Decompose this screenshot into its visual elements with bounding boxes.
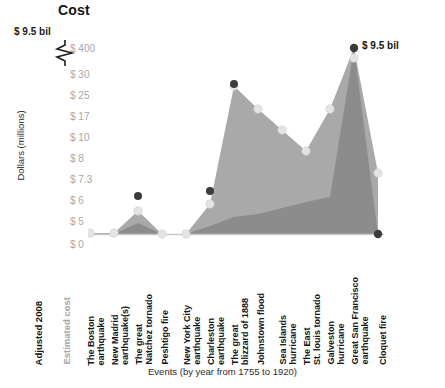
- x-axis-labels: Adjusted 2008 Estimated cost The Boston …: [0, 240, 445, 365]
- x-label-peshtigo-fire: Peshtigo fire: [160, 310, 170, 365]
- x-label-new-madrid-earthquakes: New Madrid earthquake(s): [110, 306, 130, 365]
- x-series-label-estimated: Estimated cost: [62, 297, 72, 365]
- x-label-galveston-hurricane: Galveston hurricane: [326, 321, 346, 365]
- y-axis-title: Dollars (millions): [15, 86, 26, 206]
- x-label-johnstown-flood: Johnstown flood: [256, 293, 266, 365]
- chart-title: Cost: [58, 2, 90, 18]
- x-axis-title: Events (by year from 1755 to 1920): [0, 366, 445, 377]
- x-label-natchez-tornado: The great Natchez tornado: [134, 294, 154, 365]
- x-label-east-st-louis-tornado: The East St. louis tornado: [302, 294, 322, 365]
- x-label-great-blizzard-1888: The great blizzard of 1888: [230, 298, 250, 365]
- x-series-label-adjusted: Adjusted 2008: [34, 301, 44, 365]
- x-label-cloquet-fire: Cloquet fire: [378, 315, 388, 365]
- peak-annotation: $ 9.5 bil: [362, 40, 399, 51]
- x-label-new-york-city-earthquake: New York City earthquake: [182, 305, 202, 365]
- chart-root: Cost Dollars (millions) $ 9.5 bil $ 400 …: [0, 0, 445, 388]
- y-axis-top-label: $ 9.5 bil: [14, 26, 51, 37]
- chart-svg: [88, 18, 436, 240]
- x-label-boston-earthquake: The Boston earthquake: [86, 316, 106, 366]
- x-label-charleston-earthquake: Charleston earthquake: [206, 317, 226, 365]
- x-label-sea-islands-hurricane: Sea Islands hurricane: [278, 315, 298, 365]
- x-label-great-san-francisco-earthquake: Great San Francisco earthquake: [350, 277, 370, 365]
